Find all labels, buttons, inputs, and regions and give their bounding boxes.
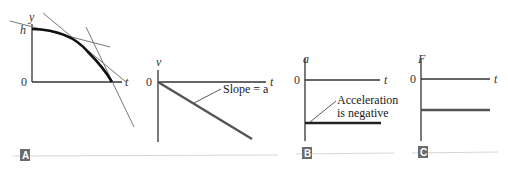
a-axis-label: a — [303, 52, 309, 66]
position-graph: y h 0 t — [10, 10, 134, 127]
v-axis-label: v — [156, 55, 162, 69]
acceleration-annotation-line2: is negative — [337, 106, 389, 120]
height-label: h — [20, 23, 26, 37]
origin-label: 0 — [410, 72, 416, 86]
slope-annotation: Slope = a — [223, 82, 269, 96]
t-axis-label: t — [125, 75, 129, 89]
panel-c-caption: C — [412, 146, 498, 158]
acceleration-leader-line — [310, 101, 336, 122]
figure-canvas: y h 0 t v 0 t Slope = a A a 0 t Accelera… — [0, 0, 508, 178]
t-axis-label: t — [270, 75, 274, 89]
f-axis-label: F — [417, 52, 426, 66]
t-axis-label: t — [384, 73, 388, 87]
y-axis-label: y — [28, 10, 35, 24]
caption-rule — [12, 155, 278, 156]
panel-tag-a-label: A — [22, 150, 29, 161]
origin-label: 0 — [21, 75, 27, 89]
acceleration-annotation-line1: Acceleration — [337, 93, 398, 107]
panel-a-caption: A — [12, 149, 278, 161]
acceleration-graph: a 0 t Acceleration is negative — [294, 52, 398, 141]
panel-b-caption: B — [296, 147, 394, 159]
velocity-graph: v 0 t Slope = a — [146, 55, 274, 142]
origin-label: 0 — [294, 73, 300, 87]
panel-tag-b-label: B — [304, 148, 311, 159]
slope-leader-line — [194, 89, 221, 103]
panel-tag-c-label: C — [420, 147, 427, 158]
force-graph: F 0 t — [410, 52, 498, 141]
t-axis-label: t — [494, 72, 498, 86]
origin-label: 0 — [146, 75, 152, 89]
